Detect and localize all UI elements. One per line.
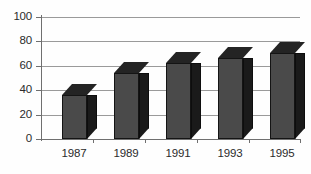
y-tick-mark <box>36 41 41 42</box>
x-axis-label-1993: 1993 <box>205 147 255 159</box>
bar-side-face <box>87 95 97 139</box>
x-axis-label-1991: 1991 <box>153 147 203 159</box>
bar-1993 <box>218 47 243 139</box>
y-axis-label-60: 60 <box>0 60 32 71</box>
bar-top-face <box>166 52 201 63</box>
bar-1995 <box>270 42 295 139</box>
bar-top-face <box>218 47 253 58</box>
x-axis-label-1989: 1989 <box>101 147 151 159</box>
y-tick-mark <box>36 139 41 140</box>
bar-1989 <box>114 62 139 139</box>
bar-front-face <box>270 53 295 139</box>
gridline-100 <box>41 17 300 18</box>
y-axis-line <box>41 15 42 141</box>
x-axis-label-1995: 1995 <box>257 147 307 159</box>
bar-top-face <box>270 42 305 53</box>
y-tick-mark <box>36 17 41 18</box>
bar-1991 <box>166 52 191 139</box>
y-axis-label-100: 100 <box>0 11 32 22</box>
y-tick-mark <box>36 66 41 67</box>
y-tick-mark <box>36 115 41 116</box>
bar-1987 <box>62 84 87 139</box>
x-tick-mark <box>197 139 198 143</box>
y-axis-label-0: 0 <box>0 133 32 144</box>
y-tick-mark <box>36 90 41 91</box>
bar-front-face <box>114 73 139 139</box>
x-tick-mark <box>249 139 250 143</box>
y-axis-label-20: 20 <box>0 109 32 120</box>
bar-front-face <box>218 58 243 139</box>
x-tick-mark <box>300 139 301 143</box>
bar-side-face <box>243 58 253 139</box>
bar-front-face <box>62 95 87 139</box>
bar-side-face <box>295 53 305 139</box>
x-tick-mark <box>93 139 94 143</box>
x-axis-label-1987: 1987 <box>49 147 99 159</box>
y-axis-label-80: 80 <box>0 35 32 46</box>
x-axis-line <box>41 139 300 140</box>
plot-area <box>41 17 300 139</box>
bar-chart: 100 80 60 40 20 0 1987 1989 1991 1993 19… <box>0 0 311 174</box>
y-axis-label-40: 40 <box>0 84 32 95</box>
x-tick-mark <box>145 139 146 143</box>
bar-side-face <box>139 73 149 139</box>
bar-side-face <box>191 63 201 139</box>
gridline-80 <box>41 41 300 42</box>
bar-top-face <box>114 62 149 73</box>
bar-front-face <box>166 63 191 139</box>
bar-top-face <box>62 84 97 95</box>
